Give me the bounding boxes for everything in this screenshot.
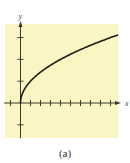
y-axis-label: y [18, 12, 23, 21]
figure-caption: (a) [0, 147, 130, 159]
chart: x y [0, 0, 130, 163]
x-axis-label: x [124, 99, 129, 108]
